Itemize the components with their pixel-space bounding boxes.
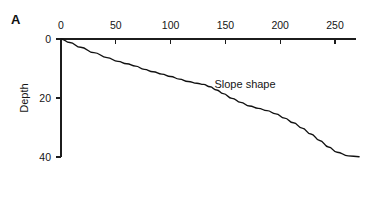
data-series-group bbox=[61, 39, 359, 157]
x-tick-label-250: 250 bbox=[326, 19, 344, 31]
x-tick-label-100: 100 bbox=[162, 19, 180, 31]
y-axis-title: Depth bbox=[18, 83, 30, 112]
x-tick-label-200: 200 bbox=[271, 19, 289, 31]
annotation-slope-shape: Slope shape bbox=[214, 78, 275, 90]
y-tick-label-20: 20 bbox=[39, 92, 51, 104]
y-axis-ticks bbox=[56, 39, 61, 157]
x-axis-ticks bbox=[61, 39, 335, 44]
x-axis-tick-labels: 050100150200250 bbox=[58, 19, 344, 31]
figure-root: A 050100150200250 02040 Depth Slope shap… bbox=[0, 0, 366, 204]
slope-shape-line-chart: 050100150200250 02040 Depth Slope shape bbox=[0, 0, 366, 204]
y-axis: 02040 Depth bbox=[18, 33, 61, 163]
x-tick-label-0: 0 bbox=[58, 19, 64, 31]
slope-shape-curve bbox=[61, 39, 359, 157]
y-axis-tick-labels: 02040 bbox=[39, 33, 51, 163]
chart-annotations: Slope shape bbox=[214, 78, 275, 90]
y-tick-label-0: 0 bbox=[45, 33, 51, 45]
x-tick-label-150: 150 bbox=[217, 19, 235, 31]
x-tick-label-50: 50 bbox=[110, 19, 122, 31]
x-axis: 050100150200250 bbox=[58, 19, 356, 44]
y-tick-label-40: 40 bbox=[39, 151, 51, 163]
